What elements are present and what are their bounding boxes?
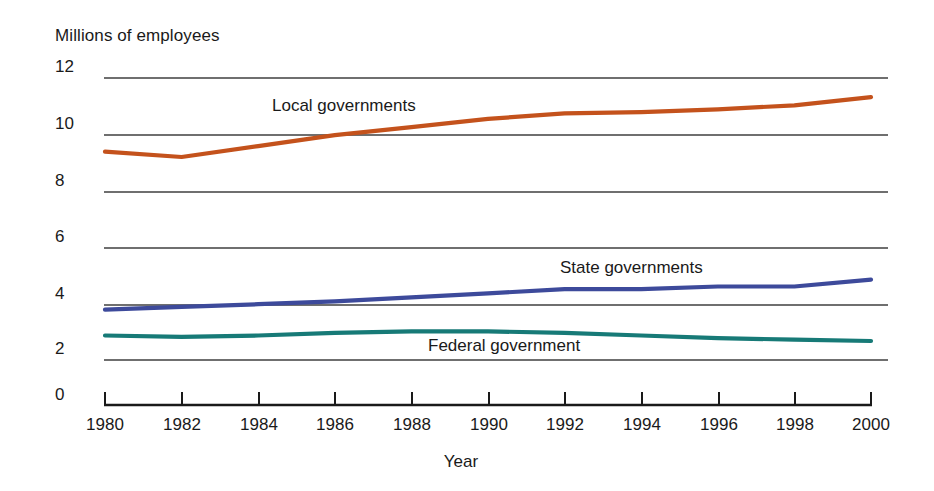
chart-container: Millions of employees 12 10 8 6 4 2 0 xyxy=(0,0,934,491)
x-axis-tick-label-1994: 1994 xyxy=(607,415,677,435)
x-axis-tick-label-1992: 1992 xyxy=(530,415,600,435)
x-axis-title-text: Year xyxy=(444,452,478,471)
x-axis-tick-label-2000: 2000 xyxy=(836,415,906,435)
x-axis-tick-label-1990: 1990 xyxy=(454,415,524,435)
series-label-state-governments: State governments xyxy=(560,258,703,278)
series-label-federal-government: Federal government xyxy=(428,336,580,356)
x-axis-tick-label-1980: 1980 xyxy=(70,415,140,435)
x-axis-tick-label-1986: 1986 xyxy=(300,415,370,435)
series-label-local-governments: Local governments xyxy=(272,96,416,116)
x-axis-tick-label-1984: 1984 xyxy=(224,415,294,435)
x-axis-title: Year xyxy=(0,452,934,472)
x-axis-tick-label-1982: 1982 xyxy=(147,415,217,435)
x-axis-tick-label-1988: 1988 xyxy=(377,415,447,435)
x-axis xyxy=(104,392,872,405)
series-line-local-governments xyxy=(105,97,871,157)
x-axis-tick-label-1996: 1996 xyxy=(684,415,754,435)
x-axis-tick-label-1998: 1998 xyxy=(760,415,830,435)
